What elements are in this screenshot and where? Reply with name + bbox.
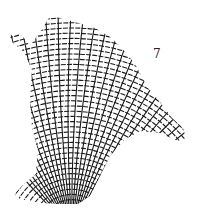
cell-mesh-drawing [0,0,199,219]
figure-label: 7 [153,48,161,60]
